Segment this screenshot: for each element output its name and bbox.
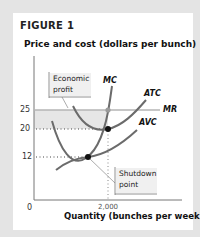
y-tick-12: 12 [22,152,32,161]
callout-text: Economic [53,73,91,84]
callout-text: profit [53,84,91,95]
shutdown-callout: Shutdown point [116,168,157,193]
x-axis-title: Quantity (bunches per week) [64,211,200,221]
chart-plot [0,0,200,237]
atc-label: ATC [144,89,161,98]
callout-text: Shutdown [119,168,157,179]
x-tick-0: 0 [27,203,32,212]
y-tick-20: 20 [20,124,30,133]
y-tick-25: 25 [20,105,30,114]
mr-label: MR [163,105,177,114]
shutdown-point [85,154,91,160]
mc-mr-point [105,107,110,112]
callout-text: point [119,179,157,190]
mc-label: MC [103,76,117,85]
economic-profit-callout: Economic profit [50,73,91,96]
x-tick-2000: 2,000 [98,203,118,211]
economic-profit-area [34,110,108,129]
avc-curve [56,130,137,170]
atc-min-point [105,126,111,132]
shutdown-leader [89,158,115,183]
economic-profit-leader [62,97,68,108]
avc-label: AVC [139,118,157,127]
